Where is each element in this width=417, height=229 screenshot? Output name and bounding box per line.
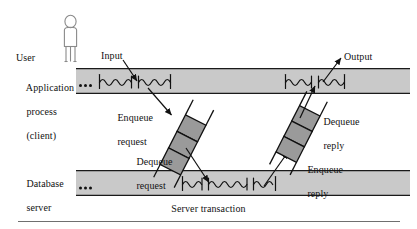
ellipsis-icon	[79, 187, 92, 190]
label-dequeue-request-line2: request	[136, 180, 166, 191]
label-database-server: Database server	[16, 166, 64, 226]
label-dequeue-request-line1: Dequeue	[136, 156, 172, 167]
label-application-process-line1: Application	[26, 82, 74, 93]
label-dequeue-request: Dequeue request	[126, 144, 173, 204]
person-icon	[64, 15, 76, 61]
label-application-process-line3: (client)	[26, 130, 56, 141]
figure-client-server-transaction: User Application process (client) Databa…	[0, 0, 417, 229]
label-application-process-line2: process	[26, 106, 57, 117]
ellipsis-icon	[79, 84, 92, 87]
label-user: User	[16, 52, 35, 64]
label-database-server-line1: Database	[26, 178, 63, 189]
label-dequeue-reply-line2: reply	[323, 140, 344, 151]
label-enqueue-request-line1: Enqueue	[117, 112, 153, 123]
label-application-process: Application process (client)	[16, 70, 74, 154]
label-enqueue-reply-line1: Enqueue	[307, 164, 343, 175]
label-input: Input	[101, 50, 123, 62]
label-output: Output	[344, 51, 372, 63]
label-dequeue-reply-line1: Dequeue	[323, 116, 359, 127]
label-enqueue-reply-line2: reply	[307, 188, 328, 199]
label-server-transaction: Server transaction	[0, 203, 417, 215]
